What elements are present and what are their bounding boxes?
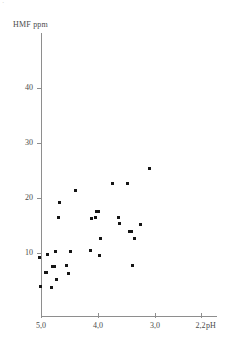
y-tick-mark [37,88,42,89]
data-point [99,237,102,240]
data-point [126,182,129,185]
data-point [38,256,41,259]
data-point [50,286,53,289]
data-point [117,216,120,219]
data-point [89,249,92,252]
x-tick-mark [201,313,202,318]
data-point [130,230,133,233]
data-point [45,271,48,274]
y-tick-label: 10 [11,249,33,257]
x-tick-label: 4,0 [83,322,113,330]
scatter-chart-figure: · HMF ppm 10203040 5,04,03,02,2 pH [0,0,229,349]
data-point [46,253,49,256]
data-point [65,264,68,267]
data-point [97,210,100,213]
data-point [67,272,70,275]
x-axis-unit-label: pH [206,322,216,330]
data-point [111,182,114,185]
x-tick-mark [155,313,156,318]
data-point [98,254,101,257]
data-point [139,223,142,226]
data-point [131,264,134,267]
data-point [58,201,61,204]
scan-corner-mark: · [2,1,5,6]
y-axis-line [41,33,42,316]
y-tick-label: 20 [11,194,33,202]
data-point [55,278,58,281]
y-tick-mark [37,198,42,199]
data-point [54,250,57,253]
data-point [94,216,97,219]
x-axis-line [41,316,217,317]
x-tick-mark [41,313,42,318]
data-point [118,222,121,225]
data-point [69,250,72,253]
x-tick-label: 5,0 [26,322,56,330]
data-point [133,237,136,240]
x-tick-label: 3,0 [140,322,170,330]
data-point [57,216,60,219]
data-point [148,167,151,170]
y-tick-label: 40 [11,84,33,92]
y-tick-mark [37,143,42,144]
data-point [39,285,42,288]
y-axis-label: HMF ppm [13,20,48,29]
data-point [53,265,56,268]
y-tick-label: 30 [11,139,33,147]
data-point [74,189,77,192]
y-tick-mark [37,253,42,254]
data-point [90,217,93,220]
x-tick-mark [98,313,99,318]
